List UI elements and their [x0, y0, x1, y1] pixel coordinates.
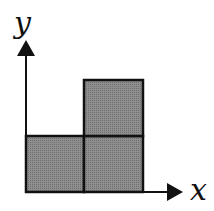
square-top-right: [84, 80, 143, 136]
x-axis-arrow-icon: [167, 183, 183, 201]
x-axis-label: x: [190, 172, 207, 207]
y-axis-arrow-icon: [17, 40, 35, 56]
y-axis-label: y: [12, 5, 32, 40]
diagram-canvas: y x: [0, 0, 214, 211]
shaded-squares: [26, 80, 143, 192]
square-bottom-left: [26, 136, 84, 192]
square-bottom-right: [84, 136, 143, 192]
